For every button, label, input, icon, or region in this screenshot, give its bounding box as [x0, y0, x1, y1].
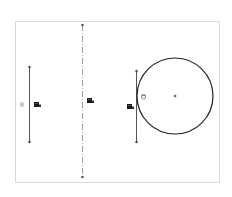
- centerline-endpoint-top[interactable]: [81, 24, 83, 26]
- right-line-endpoint-bottom[interactable]: [135, 141, 137, 143]
- left-line-endpoint-bottom[interactable]: [28, 141, 30, 143]
- centerline-endpoint-bottom[interactable]: [81, 176, 83, 178]
- left-line-endpoint-top[interactable]: [28, 66, 30, 68]
- sketch-canvas[interactable]: [0, 0, 232, 197]
- right-line-endpoint-top[interactable]: [135, 70, 137, 72]
- parallel-relation-icon[interactable]: [20, 102, 24, 107]
- sketch-frame: [16, 22, 220, 183]
